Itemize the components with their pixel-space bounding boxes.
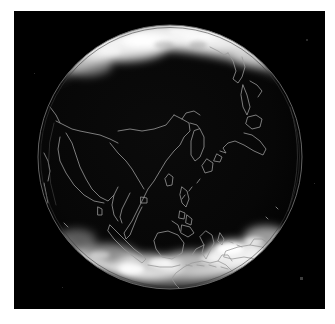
caption-area bbox=[0, 309, 335, 324]
globe-image bbox=[14, 11, 325, 309]
satellite-image-plate bbox=[14, 11, 325, 309]
page-root bbox=[0, 0, 335, 324]
globe-stage bbox=[14, 11, 325, 309]
